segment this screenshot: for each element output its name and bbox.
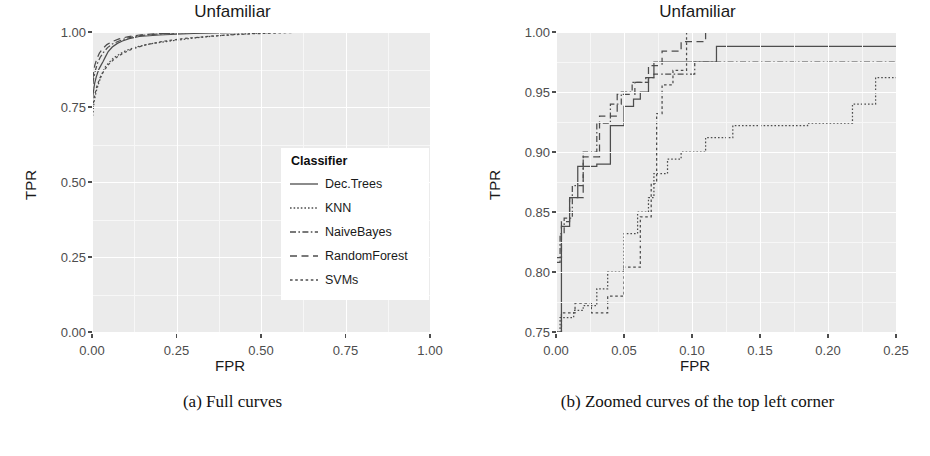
legend-label: RandomForest <box>325 249 408 263</box>
subfigure-full-curves: Unfamiliar 0.000.250.500.751.00 0.000.25… <box>0 0 465 456</box>
x-tick-label: 0.75 <box>333 343 358 358</box>
y-tick-label: 1.00 <box>61 25 86 40</box>
legend-label: NaiveBayes <box>325 225 392 239</box>
legend-item-svms[interactable]: SVMs <box>289 268 421 292</box>
roc-figure: Unfamiliar 0.000.250.500.751.00 0.000.25… <box>0 0 930 456</box>
x-tick-mark <box>555 334 556 338</box>
y-axis-tickmarks-left <box>86 32 92 332</box>
y-tick-mark <box>552 91 556 92</box>
x-tick-label: 0.20 <box>815 343 840 358</box>
y-tick-label: 0.95 <box>525 85 550 100</box>
panel-title-left: Unfamiliar <box>0 2 465 22</box>
subfigure-zoomed-curves: Unfamiliar 0.750.800.850.900.951.00 0.00… <box>465 0 930 456</box>
y-tick-label: 0.85 <box>525 205 550 220</box>
caption-left: (a) Full curves <box>0 392 465 412</box>
gridline-major-vertical <box>692 32 693 332</box>
y-tick-label: 0.90 <box>525 145 550 160</box>
y-tick-label: 1.00 <box>525 25 550 40</box>
y-tick-mark <box>552 31 556 32</box>
x-tick-mark <box>827 334 828 338</box>
y-tick-mark <box>88 106 92 107</box>
x-tick-label: 0.00 <box>79 343 104 358</box>
gridline-major-vertical <box>828 32 829 332</box>
gridline-minor-vertical <box>658 32 659 332</box>
x-tick-mark <box>623 334 624 338</box>
y-axis-ticks-right: 0.750.800.850.900.951.00 <box>498 32 550 332</box>
y-tick-label: 0.80 <box>525 265 550 280</box>
legend-label: SVMs <box>325 273 358 287</box>
y-tick-mark <box>552 211 556 212</box>
x-tick-label: 0.05 <box>611 343 636 358</box>
legend-key-solid-icon <box>289 176 319 192</box>
x-tick-mark <box>260 334 261 338</box>
y-axis-tickmarks-right <box>550 32 556 332</box>
legend-key-dashdot-icon <box>289 224 319 240</box>
x-tick-mark <box>345 334 346 338</box>
x-tick-mark <box>91 334 92 338</box>
y-tick-mark <box>552 151 556 152</box>
gridline-major-horizontal <box>556 332 896 333</box>
x-tick-mark <box>429 334 430 338</box>
gridline-major-vertical <box>896 32 897 332</box>
x-tick-label: 0.00 <box>543 343 568 358</box>
gridline-minor-vertical <box>794 32 795 332</box>
x-tick-label: 0.10 <box>679 343 704 358</box>
legend-item-naivebayes[interactable]: NaiveBayes <box>289 220 421 244</box>
legend-key-longdash-icon <box>289 248 319 264</box>
y-axis-ticks-left: 0.000.250.500.751.00 <box>34 32 86 332</box>
y-tick-label: 0.00 <box>61 325 86 340</box>
gridline-major-vertical <box>92 32 93 332</box>
x-tick-mark <box>895 334 896 338</box>
y-tick-label: 0.75 <box>525 325 550 340</box>
y-tick-mark <box>552 331 556 332</box>
legend-item-dec-trees[interactable]: Dec.Trees <box>289 172 421 196</box>
y-tick-mark <box>552 271 556 272</box>
x-tick-mark <box>691 334 692 338</box>
x-tick-label: 1.00 <box>417 343 442 358</box>
gridline-major-horizontal <box>556 212 896 213</box>
plot-area-zoomed-curves <box>556 32 896 332</box>
legend-rows: Dec.TreesKNNNaiveBayesRandomForestSVMs <box>289 172 421 292</box>
gridline-major-horizontal <box>92 332 430 333</box>
legend-item-randomforest[interactable]: RandomForest <box>289 244 421 268</box>
x-tick-mark <box>759 334 760 338</box>
gridline-major-vertical <box>430 32 431 332</box>
y-axis-label-left: TPR <box>22 170 39 200</box>
y-tick-label: 0.75 <box>61 100 86 115</box>
legend-label: KNN <box>325 201 351 215</box>
x-tick-mark <box>176 334 177 338</box>
x-axis-label-right: FPR <box>494 357 896 374</box>
gridline-major-horizontal <box>556 152 896 153</box>
x-tick-label: 0.50 <box>248 343 273 358</box>
gridline-major-vertical <box>624 32 625 332</box>
x-tick-label: 0.15 <box>747 343 772 358</box>
gridline-minor-vertical <box>862 32 863 332</box>
gridline-major-horizontal <box>556 272 896 273</box>
y-tick-mark <box>88 331 92 332</box>
y-tick-mark <box>88 181 92 182</box>
panel-title-right: Unfamiliar <box>465 2 930 22</box>
gridline-major-vertical <box>556 32 557 332</box>
legend-label: Dec.Trees <box>325 177 382 191</box>
legend-key-twodash-icon <box>289 272 319 288</box>
gridline-minor-vertical <box>726 32 727 332</box>
legend-key-dotted-icon <box>289 200 319 216</box>
y-tick-label: 0.25 <box>61 250 86 265</box>
y-tick-mark <box>88 256 92 257</box>
y-tick-label: 0.50 <box>61 175 86 190</box>
x-axis-label-left: FPR <box>30 357 430 374</box>
legend: Classifier Dec.TreesKNNNaiveBayesRandomF… <box>281 148 429 300</box>
legend-item-knn[interactable]: KNN <box>289 196 421 220</box>
gridline-minor-vertical <box>590 32 591 332</box>
gridline-major-horizontal <box>556 92 896 93</box>
x-tick-label: 0.25 <box>164 343 189 358</box>
gridline-major-horizontal <box>556 32 896 33</box>
gridline-major-vertical <box>177 32 178 332</box>
legend-title: Classifier <box>291 154 421 168</box>
x-tick-label: 0.25 <box>883 343 908 358</box>
gridline-major-vertical <box>261 32 262 332</box>
y-axis-label-right: TPR <box>486 170 503 200</box>
gridline-major-vertical <box>760 32 761 332</box>
y-tick-mark <box>88 31 92 32</box>
caption-right: (b) Zoomed curves of the top left corner <box>465 392 930 412</box>
